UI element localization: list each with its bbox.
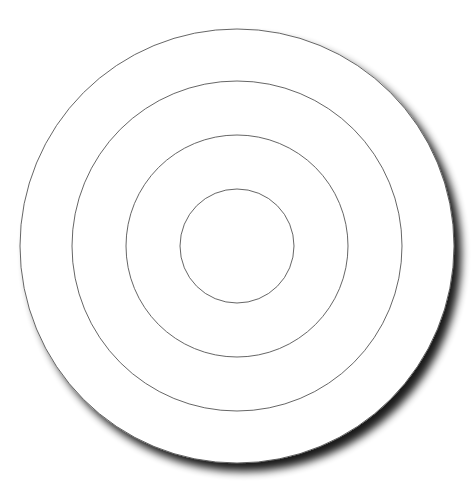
target-figure	[0, 0, 475, 491]
outer-disc	[20, 29, 454, 463]
